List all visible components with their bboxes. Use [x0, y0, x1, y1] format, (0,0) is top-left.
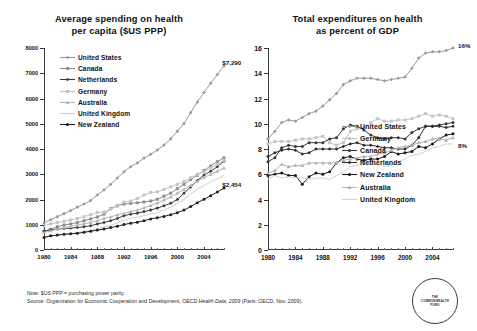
legend-item-united-states[interactable]: United States	[60, 52, 130, 63]
x-tick-label-left: 1996	[144, 254, 157, 260]
y-tick-label-right: 10	[254, 120, 262, 127]
x-tick-minor-left	[164, 248, 165, 250]
x-tick-minor-left	[157, 248, 158, 250]
y-tick-right	[264, 250, 268, 251]
x-tick-label-left: 1980	[37, 254, 50, 260]
footnote-source-prefix: Source: Organization for Economic Cooper…	[27, 298, 182, 304]
legend-item-united-kingdom[interactable]: United Kingdom	[60, 108, 130, 119]
commonwealth-fund-logo: THE COMMONWEALTH FUND	[412, 278, 458, 324]
y-tick-label-right: 12	[254, 95, 262, 102]
x-tick-minor-left	[191, 248, 192, 250]
x-tick-minor-left	[171, 248, 172, 250]
x-tick-left	[71, 247, 72, 250]
legend-label: Australia	[78, 99, 107, 106]
legend-item-netherlands[interactable]: Netherlands	[60, 74, 130, 85]
y-tick-label-right: 4	[258, 196, 262, 203]
legend-swatch-icon	[342, 146, 357, 155]
x-tick-minor-right	[289, 248, 290, 250]
legend-swatch-icon	[342, 122, 357, 131]
x-tick-right	[432, 247, 433, 250]
legend-item-netherlands[interactable]: Netherlands	[342, 157, 415, 169]
x-tick-right	[268, 247, 269, 250]
logo-line-3: FUND	[431, 303, 440, 307]
legend-label: Canada	[78, 65, 102, 72]
legend-swatch-icon	[60, 98, 75, 107]
x-tick-minor-left	[131, 248, 132, 250]
chart-title-right-line1: Total expenditures on health	[292, 14, 422, 24]
x-tick-label-left: 2004	[197, 254, 210, 260]
legend-item-united-kingdom[interactable]: United Kingdom	[342, 193, 415, 205]
legend-item-canada[interactable]: Canada	[60, 63, 130, 74]
y-tick-label-right: 8	[258, 146, 262, 153]
footnote-note: Note: $US PPP = purchasing power parity.	[27, 290, 303, 298]
y-tick-label-left: 8000	[26, 45, 38, 51]
y-tick-left	[40, 73, 44, 74]
x-tick-minor-right	[357, 248, 358, 250]
legend-item-new-zealand[interactable]: New Zealand	[342, 169, 415, 181]
x-tick-left	[204, 247, 205, 250]
x-tick-minor-left	[111, 248, 112, 250]
y-tick-right	[264, 124, 268, 125]
x-tick-minor-right	[446, 248, 447, 250]
legend-label: Germany	[78, 88, 107, 95]
legend-label: United Kingdom	[78, 110, 130, 117]
x-tick-minor-right	[371, 248, 372, 250]
x-tick-minor-left	[224, 248, 225, 250]
y-tick-label-left: 7000	[26, 70, 38, 76]
footnote: Note: $US PPP = purchasing power parity.…	[27, 290, 303, 305]
y-tick-right	[264, 48, 268, 49]
x-tick-minor-right	[309, 248, 310, 250]
x-tick-minor-left	[84, 248, 85, 250]
y-tick-left	[40, 225, 44, 226]
y-tick-label-right: 0	[258, 247, 262, 254]
x-tick-minor-right	[364, 248, 365, 250]
legend-label: Netherlands	[360, 159, 402, 166]
x-tick-minor-left	[57, 248, 58, 250]
legend-label: Germany	[360, 135, 391, 142]
y-tick-label-right: 16	[254, 45, 262, 52]
x-tick-label-right: 1980	[261, 254, 275, 261]
y-tick-right	[264, 225, 268, 226]
legend-label: United States	[78, 54, 121, 61]
legend-item-germany[interactable]: Germany	[60, 86, 130, 97]
x-tick-label-right: 1992	[343, 254, 357, 261]
x-tick-minor-left	[64, 248, 65, 250]
y-tick-right	[264, 200, 268, 201]
x-tick-minor-right	[343, 248, 344, 250]
legend-item-germany[interactable]: Germany	[342, 132, 415, 144]
legend-swatch-icon	[342, 134, 357, 143]
legend-left: United StatesCanadaNetherlandsGermanyAus…	[60, 52, 130, 130]
y-tick-right	[264, 99, 268, 100]
x-tick-minor-right	[384, 248, 385, 250]
x-tick-minor-left	[104, 248, 105, 250]
x-tick-minor-left	[184, 248, 185, 250]
x-tick-minor-left	[211, 248, 212, 250]
legend-item-united-states[interactable]: United States	[342, 120, 415, 132]
legend-right: United StatesGermanyCanadaNetherlandsNew…	[342, 120, 415, 205]
x-tick-minor-right	[453, 248, 454, 250]
legend-label: Australia	[360, 184, 391, 191]
x-tick-minor-right	[439, 248, 440, 250]
x-tick-minor-left	[51, 248, 52, 250]
legend-item-australia[interactable]: Australia	[60, 97, 130, 108]
footnote-source-title: OECD Health Data, 2009	[182, 298, 240, 304]
series-new-zealand	[43, 187, 226, 239]
x-tick-label-left: 1992	[117, 254, 130, 260]
y-tick-left	[40, 124, 44, 125]
y-tick-left	[40, 174, 44, 175]
x-tick-minor-right	[412, 248, 413, 250]
y-tick-label-left: 3000	[26, 171, 38, 177]
legend-swatch-icon	[342, 183, 357, 192]
chart-panel-right: Total expenditures on health as percent …	[238, 0, 477, 285]
legend-item-new-zealand[interactable]: New Zealand	[60, 119, 130, 130]
x-tick-minor-right	[398, 248, 399, 250]
y-tick-label-left: 6000	[26, 96, 38, 102]
y-tick-label-right: 2	[258, 221, 262, 228]
y-tick-right	[264, 149, 268, 150]
x-tick-left	[177, 247, 178, 250]
legend-item-canada[interactable]: Canada	[342, 144, 415, 156]
x-tick-label-left: 1988	[91, 254, 104, 260]
x-tick-minor-left	[91, 248, 92, 250]
legend-item-australia[interactable]: Australia	[342, 181, 415, 193]
y-tick-label-right: 14	[254, 70, 262, 77]
